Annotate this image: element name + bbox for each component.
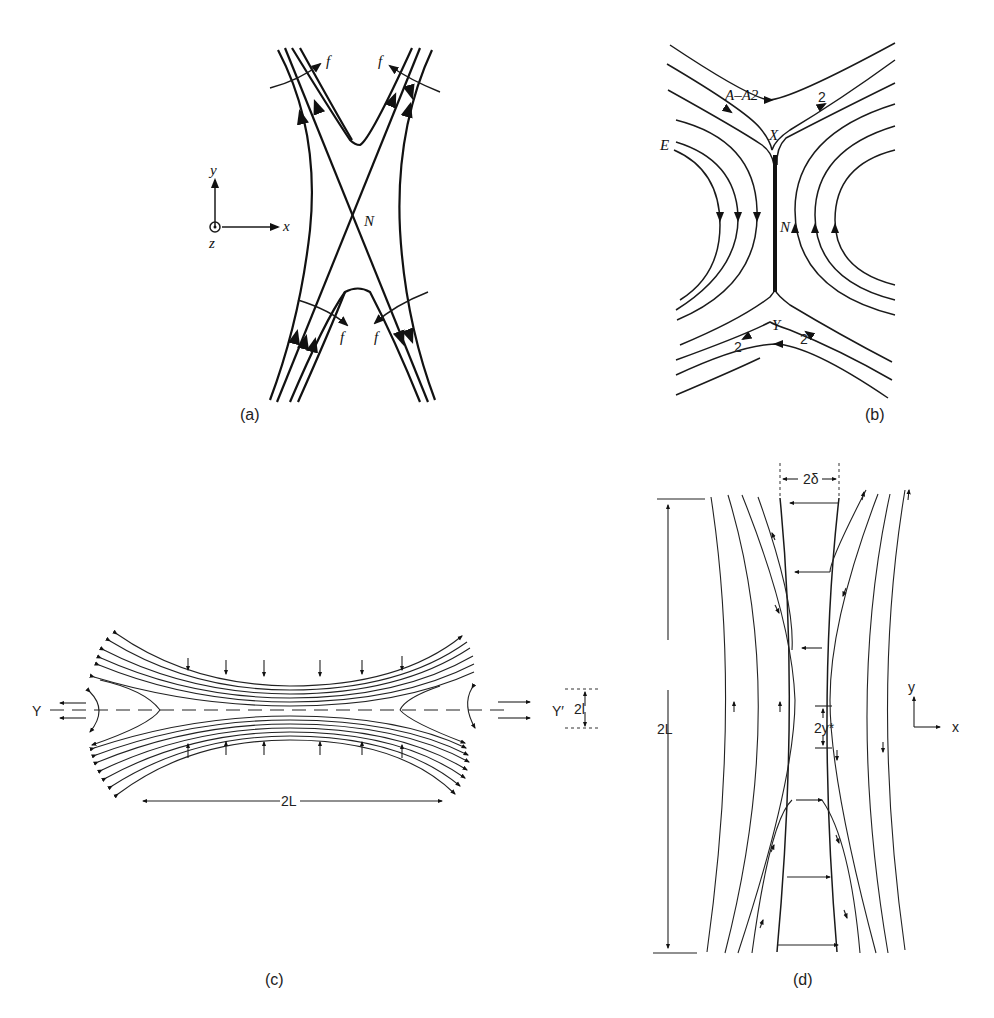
field-value-label: 2 <box>734 339 742 355</box>
axes-icon <box>210 180 278 232</box>
axes-icon <box>914 697 940 727</box>
axis-z-label: z <box>208 235 215 251</box>
panel-caption-d: (d) <box>793 971 813 988</box>
axis-y-label: y <box>908 679 915 695</box>
panel-c: Y Y′ 2l 2L (c) <box>32 634 600 988</box>
y-point-label: Y <box>772 317 782 333</box>
direction-arrows <box>734 490 909 928</box>
width-label: 2δ <box>803 471 819 487</box>
field-line-b-top <box>670 43 895 100</box>
field-line-b-upper <box>667 60 895 150</box>
panel-caption-c: (c) <box>265 971 284 988</box>
figure-canvas: y x z f f <box>0 0 994 1018</box>
field-line-b-left-1 <box>676 120 757 320</box>
flux-arrow-tl <box>270 64 320 88</box>
left-point-label: Y <box>32 703 42 719</box>
field-line-right <box>399 50 435 400</box>
electric-field-label: E <box>659 137 669 153</box>
null-line-label: N <box>779 219 791 235</box>
field-value-label: 2 <box>818 89 826 105</box>
panel-caption-a: (a) <box>240 406 260 423</box>
axis-x-label: x <box>952 719 959 735</box>
separatrix-1 <box>285 48 428 402</box>
flux-label: f <box>340 329 346 345</box>
panel-a: y x z f f <box>208 48 440 423</box>
axis-y-label: y <box>208 162 217 178</box>
thickness-label: 2l <box>574 701 585 717</box>
upper-field-lines <box>94 634 474 710</box>
panel-caption-b: (b) <box>865 406 885 423</box>
panel-b: A–A2 2 X E N Y 2 2 (b) <box>659 43 895 423</box>
field-line-b-bottom <box>676 344 888 398</box>
length-label: 2L <box>657 721 673 737</box>
field-line-d <box>707 497 726 952</box>
flux-label: f <box>378 53 384 69</box>
null-point-label: N <box>363 213 375 229</box>
separation-label: 2y* <box>814 720 835 736</box>
length-label: 2L <box>281 793 297 809</box>
flux-label: f <box>374 329 380 345</box>
lower-field-lines <box>92 710 469 794</box>
panel-d: 2L 2δ <box>653 463 959 988</box>
flux-label: f <box>326 53 332 69</box>
axis-x-label: x <box>282 218 290 234</box>
field-value-label: 2 <box>800 331 808 347</box>
right-point-label: Y′ <box>552 703 564 719</box>
field-line-b-right-1 <box>795 104 895 315</box>
sheet-boundary-left <box>777 498 789 952</box>
x-point-label: X <box>768 127 779 143</box>
potential-label: A–A2 <box>724 87 759 103</box>
field-line-left <box>270 50 312 400</box>
